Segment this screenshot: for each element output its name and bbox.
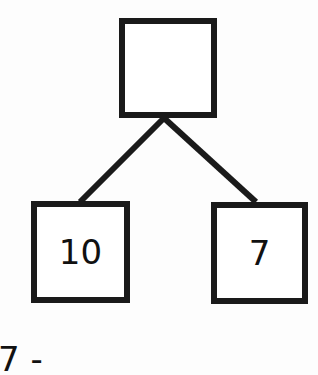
top-node-box[interactable] xyxy=(119,18,217,118)
equation-partial-text: 7 - xyxy=(0,342,43,375)
connector-right xyxy=(164,118,256,202)
right-node-box: 7 xyxy=(211,202,308,304)
left-node-value: 10 xyxy=(59,232,102,272)
left-node-box: 10 xyxy=(31,201,130,303)
connector-left xyxy=(80,118,164,202)
right-node-value: 7 xyxy=(249,233,271,273)
